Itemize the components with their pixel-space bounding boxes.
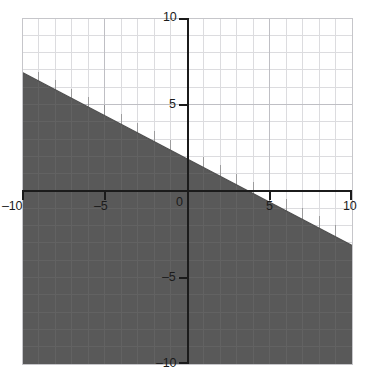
y-tick-label-pos5: 5 <box>169 98 176 111</box>
x-tick-label-pos5: 5 <box>266 200 273 213</box>
y-tick-label-neg5: –5 <box>162 271 176 284</box>
x-tick-label-pos10: 10 <box>343 200 357 213</box>
y-tick-label-neg10: –10 <box>156 357 176 370</box>
x-tick-label-zero: 0 <box>176 196 183 209</box>
x-tick-label-neg5: –5 <box>94 200 108 213</box>
linear-inequality-graph: –10 –5 0 5 10 10 5 –5 –10 <box>0 0 366 380</box>
y-tick-label-pos10: 10 <box>163 11 177 24</box>
plot-canvas <box>0 0 366 380</box>
x-tick-label-neg10: –10 <box>2 200 22 213</box>
